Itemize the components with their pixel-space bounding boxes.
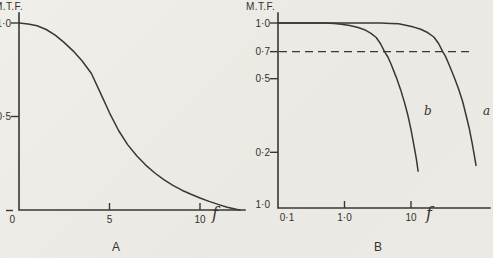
curve-b (278, 23, 418, 171)
curve-a (278, 23, 476, 165)
plot-b-ylabel: M.T.F. (246, 1, 275, 12)
plot-a: 1·00·50510 (0, 13, 245, 225)
x-tick-label-0·1: 0·1 (280, 212, 295, 223)
curve-mtf (19, 23, 240, 210)
curve-a-label: a (483, 104, 490, 118)
y-tick-label-0: 0 (9, 214, 15, 225)
y-tick-label-1·0: 1·0 (256, 199, 271, 210)
y-tick-label-0·2: 0·2 (256, 147, 271, 158)
x-tick-label-5: 5 (107, 214, 113, 225)
y-tick-label-0·5: 0·5 (0, 111, 11, 122)
y-tick-label-1·0: 1·0 (0, 18, 11, 29)
panel-a-label: A (112, 240, 120, 254)
plot-b: 1·00·70·50·21·00·11·010 (256, 13, 490, 223)
y-tick-label-1·0: 1·0 (256, 18, 271, 29)
y-tick-label-0·5: 0·5 (256, 73, 271, 84)
curve-b-label: b (424, 104, 432, 118)
plot-a-ylabel: M.T.F. (0, 1, 23, 12)
x-tick-label-10: 10 (405, 212, 417, 223)
plot-b-xlabel: f (426, 207, 432, 221)
plot-a-xlabel: f (212, 207, 218, 221)
x-tick-label-1·0: 1·0 (337, 212, 352, 223)
axis-B (278, 13, 490, 208)
y-tick-label-0·7: 0·7 (256, 46, 271, 57)
mtf-figure: 1·00·50510 1·00·70·50·21·00·11·010 M.T.F… (0, 0, 493, 258)
x-tick-label-10: 10 (194, 214, 206, 225)
panel-b-label: B (374, 240, 382, 254)
figure-svg: 1·00·50510 1·00·70·50·21·00·11·010 (0, 0, 493, 258)
axis-A (19, 13, 245, 210)
